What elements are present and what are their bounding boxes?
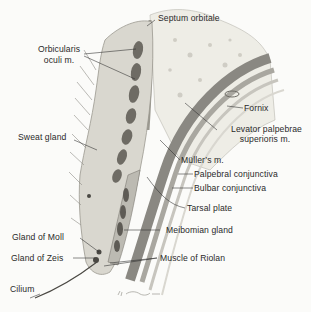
sweat-gland-shape [87, 194, 91, 198]
label-levator-line2: superioris m. [228, 134, 302, 144]
label-muscle-of-riolan: Muscle of Riolan [160, 253, 225, 263]
signature-mark [118, 291, 160, 296]
label-levator-line1: Levator palpebrae [210, 124, 302, 134]
label-tarsal-plate: Tarsal plate [187, 203, 232, 213]
label-orbicularis-line1: Orbicularis [34, 44, 84, 54]
label-meibomian-gland: Meibomian gland [166, 225, 233, 235]
label-sweat-gland: Sweat gland [18, 132, 66, 142]
label-orbicularis-line2: oculi m. [34, 55, 84, 65]
label-gland-of-zeis: Gland of Zeis [11, 253, 63, 263]
label-fornix: Fornix [244, 103, 268, 113]
label-cilium: Cilium [10, 284, 34, 294]
label-gland-of-moll: Gland of Moll [12, 232, 64, 242]
cilium-shape [35, 262, 97, 298]
eyelid-diagram: Septum orbitale Orbicularis oculi m. For… [0, 0, 311, 312]
label-palpebral-conjunctiva: Palpebral conjunctiva [194, 169, 278, 179]
label-mullers-muscle: Müller’s m. [181, 155, 224, 165]
label-septum-orbitale: Septum orbitale [158, 13, 220, 23]
label-bulbar-conjunctiva: Bulbar conjunctiva [194, 183, 266, 193]
